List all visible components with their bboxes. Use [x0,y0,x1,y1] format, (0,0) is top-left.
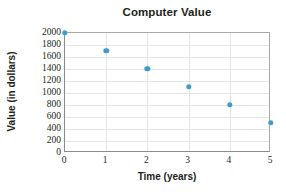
data-point [62,30,67,35]
x-axis-label: Time (years) [64,171,270,182]
gridline-horizontal [65,117,269,118]
x-tick-label: 1 [93,155,117,165]
x-tick-label: 4 [217,155,241,165]
y-tick-label: 2000 [21,27,61,37]
chart-title: Computer Value [64,6,270,18]
gridline-horizontal [65,93,269,94]
gridline-vertical [230,33,231,151]
data-point [227,102,232,107]
y-axis-label: Value (in dollars) [6,32,17,152]
y-tick-label: 1200 [21,75,61,85]
gridline-vertical [189,33,190,151]
data-point [103,48,108,53]
y-tick-label: 1800 [21,39,61,49]
gridline-horizontal [65,81,269,82]
gridline-horizontal [65,69,269,70]
gridline-horizontal [65,105,269,106]
x-tick-label: 2 [134,155,158,165]
x-tick-label: 5 [258,155,282,165]
y-tick-label: 1400 [21,63,61,73]
data-point [268,120,273,125]
scatter-chart: Computer Value Value (in dollars) 020040… [0,0,286,194]
plot-area [64,32,270,152]
data-point [145,66,150,71]
gridline-horizontal [65,141,269,142]
x-tick-label: 3 [176,155,200,165]
data-point [186,84,191,89]
gridline-horizontal [65,129,269,130]
y-axis-tick-labels: 0200400600800100012001400160018002000 [18,32,61,152]
gridline-vertical [147,33,148,151]
y-tick-label: 800 [21,99,61,109]
gridline-horizontal [65,45,269,46]
y-tick-label: 400 [21,123,61,133]
x-tick-label: 0 [52,155,76,165]
gridline-horizontal [65,57,269,58]
y-tick-label: 600 [21,111,61,121]
y-tick-label: 1000 [21,87,61,97]
y-tick-label: 200 [21,135,61,145]
x-axis-tick-labels: 012345 [64,155,270,169]
y-tick-label: 1600 [21,51,61,61]
